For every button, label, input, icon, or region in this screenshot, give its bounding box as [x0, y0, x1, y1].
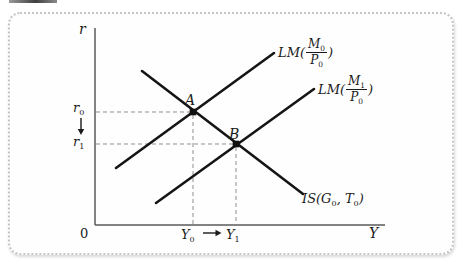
- lm1-fraction: M1P0: [346, 75, 367, 104]
- y0-tick-label: Y0: [181, 228, 195, 241]
- x-axis-label: Y: [369, 226, 378, 240]
- output-increase-arrow: [203, 230, 222, 236]
- point-b-label: B: [229, 127, 239, 141]
- is-curve-label: IS(G0, T0): [302, 192, 364, 205]
- r0-subscript: 0: [79, 108, 84, 117]
- y-axis-label: r: [79, 22, 86, 36]
- r1-tick-label: r1: [73, 135, 84, 148]
- point-a-dot: [190, 109, 197, 116]
- screenshot-root: { "colors": { "curve": "#151515", "axis"…: [0, 0, 465, 268]
- lm1-curve-label: LM(M1P0): [318, 75, 373, 104]
- lm0-curve-label: LM(M0P0): [278, 38, 333, 67]
- y1-tick-label: Y1: [226, 228, 240, 241]
- lm0-fraction: M0P0: [306, 38, 327, 67]
- r0-tick-label: r0: [73, 101, 84, 114]
- y1-subscript: 1: [235, 235, 240, 244]
- point-a-label: A: [185, 93, 195, 107]
- y0-subscript: 0: [190, 235, 195, 244]
- origin-label: 0: [80, 227, 88, 240]
- r1-subscript: 1: [79, 142, 84, 151]
- rate-decrease-arrow: [78, 118, 84, 135]
